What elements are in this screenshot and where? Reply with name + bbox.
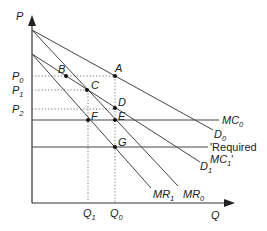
p0-label: P0: [12, 70, 24, 85]
label-a: A: [114, 62, 122, 74]
q0-label: Q0: [110, 207, 124, 222]
axes: [28, 15, 235, 207]
point-d: [113, 106, 117, 110]
q1-label: Q1: [83, 207, 96, 222]
p1-label: P1: [12, 84, 24, 99]
point-c: [85, 88, 89, 92]
point-g: [113, 145, 117, 149]
point-a: [113, 74, 117, 78]
label-b: B: [58, 63, 65, 75]
price-labels: P0 P1 P2: [12, 70, 24, 118]
point-e: [113, 118, 117, 122]
x-axis-arrow-icon: [224, 199, 235, 207]
mc0-label: MC0: [222, 114, 244, 129]
guide-lines: [32, 76, 115, 203]
quantity-labels: Q1 Q0: [83, 207, 124, 222]
p2-label: P2: [12, 103, 24, 118]
y-axis-label: P: [16, 10, 24, 22]
label-g: G: [118, 136, 127, 148]
point-f: [86, 118, 90, 122]
mc1-label-line2: MC1': [210, 153, 233, 168]
monopoly-diagram: A B C D E F G P Q P0 P1 P2 Q1 Q0 MC0 D0 …: [0, 0, 267, 231]
curves: [32, 30, 219, 188]
label-d: D: [118, 96, 126, 108]
x-axis-label: Q: [211, 209, 220, 221]
mr1-label: MR1: [153, 188, 174, 203]
label-e: E: [118, 110, 126, 122]
mc1-label-line1: 'Required: [210, 141, 257, 153]
label-c: C: [91, 79, 99, 91]
marginal-revenue-mr0: [32, 30, 178, 186]
curve-labels: MC0 D0 'Required MC1' D1 MR1 MR0: [153, 114, 257, 203]
mr0-label: MR0: [183, 188, 205, 203]
y-axis-arrow-icon: [28, 15, 36, 26]
